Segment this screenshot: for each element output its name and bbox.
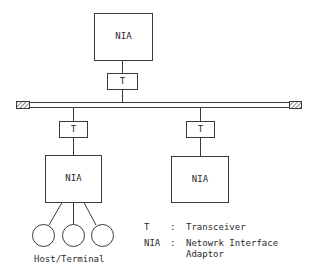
legend-key-nia: NIA [144, 238, 160, 248]
host-terminal-label: Host/Terminal [34, 254, 104, 264]
right-nia-label: NIA [171, 174, 229, 184]
legend-key-t: T [144, 222, 149, 232]
left-transceiver-label: T [59, 124, 88, 134]
left-nia-label: NIA [45, 173, 102, 183]
network-diagram [0, 0, 312, 274]
legend-value-nia: Netowrk Interface [186, 238, 278, 248]
host-terminal-icon [92, 225, 114, 247]
right-transceiver-label: T [186, 124, 215, 134]
host-terminal-icon [33, 225, 55, 247]
host-terminal-icon [63, 225, 85, 247]
legend-value-nia-line2: Adaptor [186, 249, 224, 259]
right-terminator [290, 102, 302, 109]
legend-value-t: Transceiver [186, 222, 246, 232]
top-nia-label: NIA [94, 31, 153, 41]
top-transceiver-label: T [107, 76, 138, 86]
legend-sep-t: : [170, 222, 175, 232]
left-terminator [17, 102, 30, 109]
legend-sep-nia: : [170, 238, 175, 248]
network-bus [29, 103, 289, 108]
